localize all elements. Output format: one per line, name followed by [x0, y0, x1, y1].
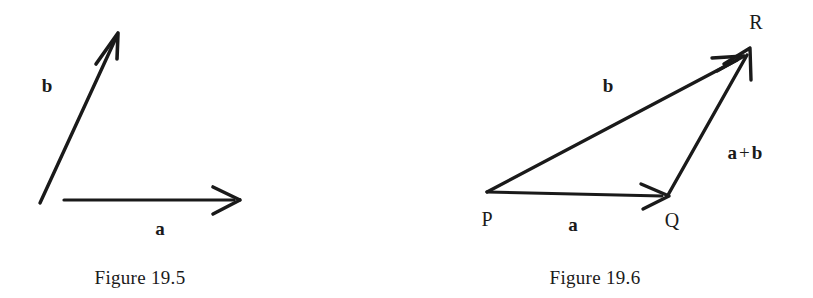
figure-19-6-vector-b-label: b — [603, 76, 614, 95]
figure-19-6-vector-a-shaft — [487, 192, 662, 196]
figure-19-6-point-label-q: Q — [665, 210, 679, 230]
sum-label-second-term: b — [752, 142, 763, 163]
figure-19-5-drawing — [40, 33, 240, 214]
figure-19-6-point-label-p: P — [481, 209, 492, 229]
sum-label-operator: + — [737, 142, 752, 163]
sum-label-first-term: a — [728, 142, 738, 163]
figure-19-5-vector-b-label: b — [42, 76, 53, 95]
figures-drawing-canvas — [0, 0, 813, 298]
figure-19-5-vector-a-label: a — [155, 219, 165, 238]
figure-19-6-point-label-r: R — [749, 12, 762, 32]
figure-19-5-caption: Figure 19.5 — [95, 268, 186, 287]
figure-19-5-vector-b-shaft — [40, 40, 115, 203]
figure-19-6-vector-a-label: a — [568, 215, 578, 234]
figure-19-6-vector-a-plus-b-label: a+b — [728, 143, 763, 162]
figure-19-6-drawing — [487, 48, 751, 209]
figure-19-6-caption: Figure 19.6 — [550, 268, 641, 287]
